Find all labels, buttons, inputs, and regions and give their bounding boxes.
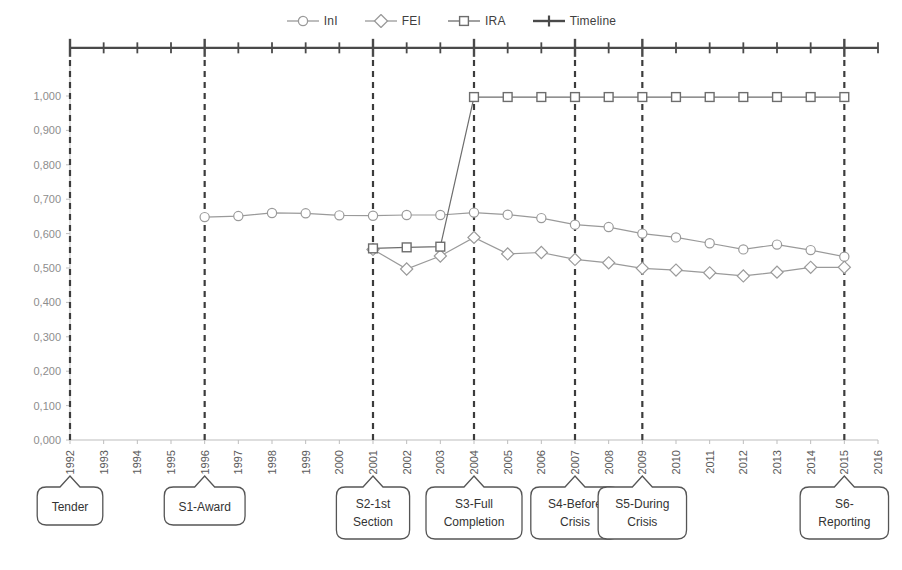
x-tick-label: 2000	[333, 450, 345, 474]
y-tick-label: 1,000	[33, 90, 61, 102]
callout-label: Crisis	[560, 515, 590, 529]
data-point-marker	[638, 229, 647, 238]
callout-label: Reporting	[818, 515, 870, 529]
data-point-marker	[705, 93, 714, 102]
x-tick-label: 2002	[401, 450, 413, 474]
callout-label: S6-	[835, 497, 854, 511]
data-point-marker	[840, 93, 849, 102]
y-tick-label: 0,500	[33, 262, 61, 274]
x-tick-label: 2011	[704, 450, 716, 474]
callout-label: Crisis	[627, 515, 657, 529]
milestone-callout[interactable]: S2-1stSection	[336, 476, 409, 539]
x-tick-label: 2003	[434, 450, 446, 474]
x-tick-label: 1997	[232, 450, 244, 474]
x-tick-label: 1995	[165, 450, 177, 474]
data-point-marker	[773, 93, 782, 102]
x-tick-label: 2004	[468, 450, 480, 474]
callout-label: S1-Award	[178, 500, 230, 514]
callout-label: Section	[353, 515, 393, 529]
data-point-marker	[200, 212, 209, 221]
data-point-marker	[737, 270, 749, 282]
data-point-marker	[670, 264, 682, 276]
x-tick-label: 2001	[367, 450, 379, 474]
data-point-marker	[739, 245, 748, 254]
y-tick-label: 0,800	[33, 159, 61, 171]
data-point-marker	[469, 208, 478, 217]
series-timeline	[70, 39, 878, 57]
data-point-marker	[705, 239, 714, 248]
x-tick-label: 1993	[98, 450, 110, 474]
milestone-callout[interactable]: S6-Reporting	[800, 476, 888, 539]
data-point-marker	[704, 267, 716, 279]
data-point-marker	[771, 266, 783, 278]
milestone-callout[interactable]: S5-DuringCrisis	[598, 476, 686, 539]
data-point-marker	[772, 240, 781, 249]
data-point-marker	[636, 262, 648, 274]
x-tick-label: 1992	[64, 450, 76, 474]
data-point-marker	[470, 93, 479, 102]
data-point-marker	[672, 93, 681, 102]
x-tick-label: 2014	[805, 450, 817, 474]
data-point-marker	[537, 214, 546, 223]
x-tick-label: 1996	[199, 450, 211, 474]
y-tick-label: 0,700	[33, 193, 61, 205]
data-point-marker	[604, 222, 613, 231]
data-point-marker	[401, 263, 413, 275]
data-point-marker	[335, 211, 344, 220]
x-tick-label: 2012	[737, 450, 749, 474]
x-tick-label: 2016	[872, 450, 884, 474]
data-point-marker	[603, 257, 615, 269]
callout-label: S2-1st	[356, 497, 391, 511]
data-point-marker	[402, 243, 411, 252]
callout-label: Tender	[52, 500, 89, 514]
data-point-marker	[436, 210, 445, 219]
data-point-marker	[436, 242, 445, 251]
callout-label: S4-Before	[548, 497, 602, 511]
x-tick-label: 2010	[670, 450, 682, 474]
milestone-callout[interactable]: S3-FullCompletion	[426, 476, 522, 539]
callout-label: S5-During	[615, 497, 669, 511]
data-point-marker	[739, 93, 748, 102]
data-point-marker	[569, 253, 581, 265]
x-tick-label: 2005	[502, 450, 514, 474]
callout-label: S3-Full	[455, 497, 493, 511]
milestone-callout[interactable]: Tender	[37, 476, 103, 525]
data-point-marker	[502, 248, 514, 260]
data-point-marker	[604, 93, 613, 102]
x-tick-label: 2013	[771, 450, 783, 474]
data-point-marker	[503, 93, 512, 102]
y-tick-label: 0,400	[33, 296, 61, 308]
x-tick-label: 2009	[636, 450, 648, 474]
data-point-marker	[368, 211, 377, 220]
x-tick-label: 2006	[535, 450, 547, 474]
data-point-marker	[806, 93, 815, 102]
chart-page: InI FEI IRA Timeline 0,0000,1000,2000,30…	[0, 0, 902, 570]
data-point-marker	[234, 211, 243, 220]
milestone-callout[interactable]: S1-Award	[164, 476, 245, 525]
data-point-marker	[267, 208, 276, 217]
y-tick-label: 0,100	[33, 400, 61, 412]
data-point-marker	[369, 244, 378, 253]
y-tick-label: 0,200	[33, 365, 61, 377]
x-tick-label: 1994	[131, 450, 143, 474]
data-point-marker	[402, 210, 411, 219]
data-point-marker	[671, 233, 680, 242]
series-fei	[367, 231, 850, 282]
data-point-marker	[535, 246, 547, 258]
line-chart: 0,0000,1000,2000,3000,4000,5000,6000,700…	[0, 0, 902, 570]
data-point-marker	[838, 261, 850, 273]
y-tick-label: 0,000	[33, 434, 61, 446]
x-tick-label: 2008	[603, 450, 615, 474]
x-tick-label: 2015	[838, 450, 850, 474]
data-point-marker	[805, 261, 817, 273]
data-point-marker	[503, 210, 512, 219]
data-point-marker	[571, 93, 580, 102]
data-point-marker	[537, 93, 546, 102]
data-point-marker	[301, 209, 310, 218]
x-tick-label: 1999	[300, 450, 312, 474]
data-point-marker	[638, 93, 647, 102]
data-point-marker	[570, 220, 579, 229]
x-tick-label: 2007	[569, 450, 581, 474]
data-point-marker	[806, 246, 815, 255]
y-tick-label: 0,900	[33, 124, 61, 136]
